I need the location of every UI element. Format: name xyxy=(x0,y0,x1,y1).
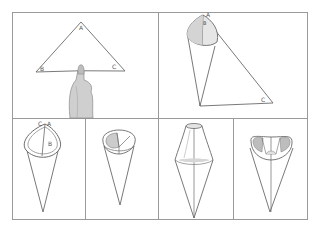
label-b: B xyxy=(48,140,52,147)
panel-1-triangle-on-finger: A B C xyxy=(36,22,125,118)
label-c: C xyxy=(38,120,42,127)
label-b: B xyxy=(203,20,207,26)
label-b: B xyxy=(40,65,44,72)
label-c: C xyxy=(261,96,265,103)
panel-4-cone-folded-top xyxy=(103,130,136,205)
panel-3-cone: C A B xyxy=(24,120,60,212)
label-a: A xyxy=(47,120,52,127)
panel-2-rolled-cone: A B C xyxy=(187,11,273,106)
cone-folding-diagram: A B C A B C C A B xyxy=(0,0,321,230)
panel-6-cone-rim-folded xyxy=(250,136,293,212)
label-c: C xyxy=(112,63,116,70)
panel-5-pinched-cone xyxy=(175,124,213,219)
